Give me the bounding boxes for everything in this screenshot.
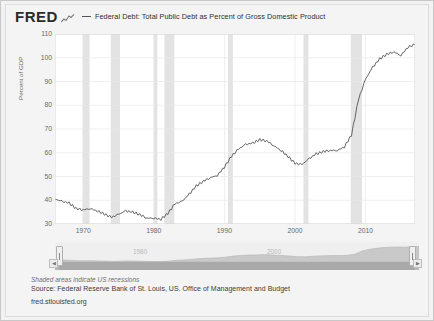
y-tick-70: 70 [30, 125, 52, 132]
navigator-scrollbar-thumb[interactable] [59, 262, 415, 270]
chart-plot-area[interactable] [55, 34, 415, 224]
y-tick-30: 30 [30, 220, 52, 227]
fred-chart-panel: FRED Federal Debt: Total Public Debt as … [5, 4, 429, 317]
line-dash-icon [82, 16, 91, 17]
x-tick-2010: 2010 [351, 227, 381, 234]
chart-legend[interactable]: Federal Debt: Total Public Debt as Perce… [82, 12, 325, 21]
x-tick-1970: 1970 [68, 227, 98, 234]
y-tick-80: 80 [30, 101, 52, 108]
y-axis-title: Percent of GDP [17, 57, 24, 100]
chart-header: FRED Federal Debt: Total Public Debt as … [6, 5, 428, 31]
y-tick-100: 100 [30, 54, 52, 61]
fred-url[interactable]: fred.stlouisfed.org [31, 297, 421, 308]
legend-label: Federal Debt: Total Public Debt as Perce… [95, 12, 325, 21]
source-text: Source: Federal Reserve Bank of St. Loui… [31, 284, 421, 295]
x-axis-ticks: 19701980199020002010 [6, 227, 430, 239]
navigator-left-arrow[interactable]: ◀ [49, 259, 58, 268]
navigator-label-1980: 1980 [133, 248, 147, 255]
x-tick-2000: 2000 [280, 227, 310, 234]
navigator-label-2000: 2000 [267, 248, 281, 255]
chart-range-navigator[interactable]: 1980 2000 ◀ ▶ [55, 242, 419, 270]
y-tick-40: 40 [30, 196, 52, 203]
navigator-svg [55, 242, 419, 270]
y-tick-90: 90 [30, 78, 52, 85]
x-tick-1990: 1990 [209, 227, 239, 234]
y-tick-50: 50 [30, 173, 52, 180]
navigator-right-arrow[interactable]: ▶ [413, 259, 422, 268]
y-axis-ticks: 30405060708090100110 [28, 5, 52, 255]
y-tick-110: 110 [30, 30, 52, 37]
squiggle-chart-icon [61, 14, 74, 23]
chart-footer: Shaded areas indicate US recessions Sour… [31, 275, 421, 307]
x-tick-1980: 1980 [139, 227, 169, 234]
y-tick-60: 60 [30, 149, 52, 156]
recession-note: Shaded areas indicate US recessions [31, 275, 421, 284]
fred-chart-card: FRED Federal Debt: Total Public Debt as … [0, 0, 434, 321]
chart-plot-svg [55, 34, 415, 224]
